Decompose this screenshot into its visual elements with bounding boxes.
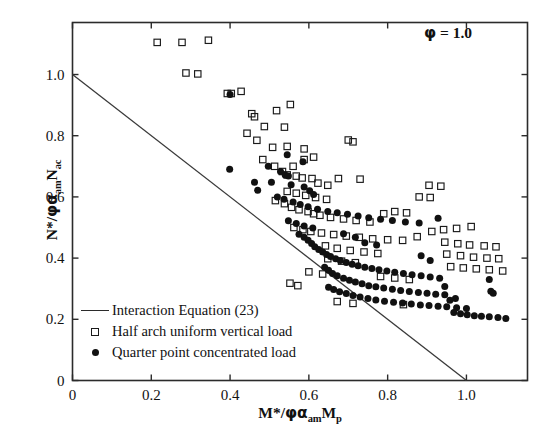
data-point-open-square bbox=[323, 196, 329, 202]
data-point-open-square bbox=[269, 144, 275, 150]
filled-circle-key-icon bbox=[78, 349, 112, 356]
data-point-filled-circle bbox=[424, 290, 431, 297]
data-point-filled-circle bbox=[288, 181, 295, 188]
data-point-filled-circle bbox=[355, 212, 362, 219]
data-point-open-square bbox=[254, 137, 260, 143]
x-tick-label: 0.8 bbox=[378, 387, 397, 404]
data-point-filled-circle bbox=[494, 314, 501, 321]
data-point-filled-circle bbox=[381, 298, 388, 305]
data-point-filled-circle bbox=[417, 301, 424, 308]
data-point-open-square bbox=[295, 282, 301, 288]
data-point-filled-circle bbox=[349, 261, 356, 268]
data-point-filled-circle bbox=[305, 203, 312, 210]
data-point-open-square bbox=[399, 237, 405, 243]
data-point-open-square bbox=[327, 214, 333, 220]
data-point-filled-circle bbox=[355, 262, 362, 269]
data-point-filled-circle bbox=[399, 300, 406, 307]
data-point-open-square bbox=[468, 223, 474, 229]
data-point-open-square bbox=[325, 182, 331, 188]
legend-item-interaction-equation: Interaction Equation (23) bbox=[78, 300, 338, 321]
data-point-filled-circle bbox=[359, 280, 366, 287]
data-point-open-square bbox=[481, 243, 487, 249]
data-point-filled-circle bbox=[340, 275, 347, 282]
data-point-open-square bbox=[281, 124, 287, 130]
data-point-filled-circle bbox=[380, 285, 387, 292]
data-point-filled-circle bbox=[297, 201, 304, 208]
data-point-filled-circle bbox=[457, 310, 464, 317]
data-point-open-square bbox=[447, 263, 453, 269]
data-point-open-square bbox=[377, 273, 383, 279]
data-point-open-square bbox=[330, 231, 336, 237]
data-point-open-square bbox=[244, 130, 250, 136]
data-point-filled-circle bbox=[284, 151, 291, 158]
data-point-filled-circle bbox=[254, 187, 261, 194]
data-point-open-square bbox=[438, 183, 444, 189]
data-point-open-square bbox=[496, 256, 502, 262]
scatter-plot bbox=[0, 0, 544, 436]
data-point-open-square bbox=[384, 237, 390, 243]
data-point-filled-circle bbox=[383, 267, 390, 274]
data-point-filled-circle bbox=[361, 239, 368, 246]
data-point-open-square bbox=[444, 251, 450, 257]
data-point-filled-circle bbox=[435, 215, 442, 222]
data-point-filled-circle bbox=[409, 271, 416, 278]
data-point-filled-circle bbox=[441, 283, 448, 290]
data-point-filled-circle bbox=[389, 286, 396, 293]
data-point-filled-circle bbox=[427, 274, 434, 281]
data-point-open-square bbox=[260, 156, 266, 162]
data-point-open-square bbox=[460, 265, 466, 271]
data-point-filled-circle bbox=[346, 277, 353, 284]
data-point-filled-circle bbox=[285, 217, 292, 224]
data-point-filled-circle bbox=[290, 199, 297, 206]
data-point-filled-circle bbox=[365, 214, 372, 221]
x-tick-label: 1.0 bbox=[457, 387, 476, 404]
data-point-filled-circle bbox=[349, 292, 356, 299]
data-point-filled-circle bbox=[352, 278, 359, 285]
data-point-open-square bbox=[455, 241, 461, 247]
data-point-open-square bbox=[392, 275, 398, 281]
data-point-open-square bbox=[287, 101, 293, 107]
data-point-filled-circle bbox=[334, 272, 341, 279]
data-point-filled-circle bbox=[344, 211, 351, 218]
data-point-open-square bbox=[306, 269, 312, 275]
data-point-filled-circle bbox=[402, 219, 409, 226]
x-tick-label: 0.2 bbox=[142, 387, 161, 404]
data-point-open-square bbox=[319, 271, 325, 277]
x-axis-label: M*/φαamMp bbox=[258, 404, 341, 424]
data-point-open-square bbox=[429, 228, 435, 234]
data-point-filled-circle bbox=[375, 266, 382, 273]
data-point-filled-circle bbox=[478, 313, 485, 320]
data-point-filled-circle bbox=[265, 163, 272, 170]
data-point-open-square bbox=[334, 245, 340, 251]
y-tick-label: 0 bbox=[18, 372, 65, 389]
data-point-filled-circle bbox=[274, 193, 281, 200]
data-point-open-square bbox=[486, 267, 492, 273]
data-point-filled-circle bbox=[463, 305, 470, 312]
data-point-open-square bbox=[361, 249, 367, 255]
data-point-open-square bbox=[154, 39, 160, 45]
y-tick-label: 0.8 bbox=[18, 127, 65, 144]
data-point-open-square bbox=[310, 154, 316, 160]
data-point-filled-circle bbox=[364, 295, 371, 302]
data-point-filled-circle bbox=[340, 230, 347, 237]
data-point-filled-circle bbox=[372, 297, 379, 304]
data-point-filled-circle bbox=[343, 259, 350, 266]
data-point-open-square bbox=[427, 194, 433, 200]
data-point-filled-circle bbox=[372, 283, 379, 290]
data-point-open-square bbox=[238, 88, 244, 94]
data-point-open-square bbox=[457, 252, 463, 258]
data-point-filled-circle bbox=[343, 290, 350, 297]
data-point-open-square bbox=[392, 208, 398, 214]
chart-legend: Interaction Equation (23) Half arch unif… bbox=[78, 300, 338, 363]
data-point-filled-circle bbox=[415, 289, 422, 296]
data-point-filled-circle bbox=[337, 257, 344, 264]
y-tick-label: 0.4 bbox=[18, 250, 65, 267]
legend-item-half-arch-uniform-vertical-load: Half arch uniform vertical load bbox=[78, 321, 338, 342]
data-point-filled-circle bbox=[299, 158, 306, 165]
legend-label: Half arch uniform vertical load bbox=[112, 323, 292, 340]
data-point-filled-circle bbox=[357, 293, 364, 300]
data-point-open-square bbox=[195, 71, 201, 77]
data-point-filled-circle bbox=[418, 272, 425, 279]
data-point-filled-circle bbox=[416, 219, 423, 226]
data-point-open-square bbox=[345, 137, 351, 143]
